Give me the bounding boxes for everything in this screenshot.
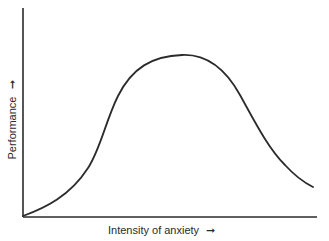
arrow-right-icon: ➞ (206, 224, 215, 237)
x-axis-label-text: Intensity of anxiety (108, 224, 199, 236)
arrow-right-icon: ➞ (6, 80, 19, 89)
y-axis-label-text: Performance (6, 97, 18, 160)
y-axis-label: Performance ➞ (6, 80, 19, 159)
performance-anxiety-diagram: Performance ➞ Intensity of anxiety ➞ (0, 0, 329, 241)
x-axis-label: Intensity of anxiety ➞ (108, 224, 215, 237)
chart-canvas (0, 0, 329, 241)
performance-curve (23, 55, 313, 216)
